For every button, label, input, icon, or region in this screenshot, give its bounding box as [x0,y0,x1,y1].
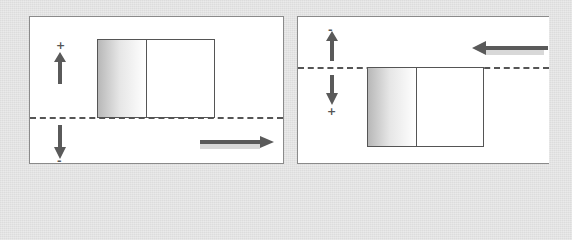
reference-dashed-line [30,117,283,119]
plus-sign: + [327,106,336,117]
arrow-right-icon [200,136,280,152]
box-shading [368,68,416,146]
plus-sign: + [56,40,65,51]
arrow-left-icon [472,41,552,59]
box-divider [416,68,417,146]
left-panel: + - [29,16,284,164]
arrow-up-icon [54,52,66,84]
right-box [367,67,484,147]
minus-sign: - [57,155,62,166]
right-panel: - + [297,16,549,164]
arrow-down-icon [326,75,338,105]
left-box [97,39,215,118]
box-shading [98,40,146,117]
box-divider [146,40,147,117]
arrow-up-icon [326,31,338,61]
